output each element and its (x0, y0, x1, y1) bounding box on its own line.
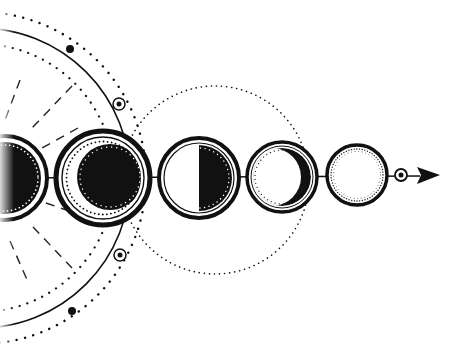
left-fade (0, 0, 14, 357)
phase-waning-crescent (243, 142, 317, 212)
phase-full-moon (327, 145, 387, 205)
phase-half-moon (159, 138, 239, 220)
arrow-head-icon (417, 167, 440, 184)
orbit-dot-icon (68, 307, 76, 315)
illustration-canvas (0, 0, 469, 357)
orbit-ringed-dot-icon (113, 98, 125, 110)
orbit-ringed-dot-icon (114, 249, 126, 261)
moon-phase-illustration: Moon phases progression (0, 0, 469, 357)
orbit-dot-icon (66, 45, 74, 53)
end-ringed-dot-icon (395, 169, 407, 181)
phase-waxing-crescent (56, 131, 150, 225)
